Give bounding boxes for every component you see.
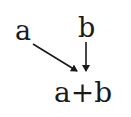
edge-a-to-sum [33, 44, 77, 71]
diagonal-arrow-icon [33, 44, 77, 71]
arrows-layer [0, 0, 131, 117]
diagram-canvas: a b a+b [0, 0, 131, 117]
